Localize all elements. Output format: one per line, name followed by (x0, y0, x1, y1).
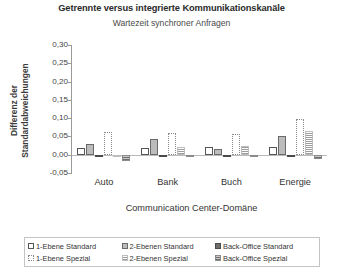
bar[interactable] (305, 131, 313, 155)
bar-slot (77, 45, 85, 173)
legend-swatch-icon (215, 255, 221, 261)
legend-item[interactable]: Back-Office Standard (215, 242, 316, 251)
legend-item-label: Back-Office Standard (223, 242, 293, 251)
bar[interactable] (241, 146, 249, 155)
bar[interactable] (269, 147, 277, 155)
bar-slot (205, 45, 213, 173)
bar-set (200, 45, 264, 173)
bar-slot (141, 45, 149, 173)
bar-group: Buch (200, 45, 264, 173)
x-axis-title: Communication Center-Domäne (40, 203, 343, 213)
y-axis-tick-label: 0,05 (30, 132, 68, 140)
bar[interactable] (250, 155, 258, 157)
bar[interactable] (205, 147, 213, 154)
bar-slot (223, 45, 231, 173)
chart-container: Getrennte versus integrierte Kommunikati… (0, 0, 343, 274)
x-axis-category-label: Buch (200, 177, 264, 187)
y-axis-tick-label: 0,00 (30, 151, 68, 159)
bar[interactable] (168, 133, 176, 155)
bar[interactable] (177, 147, 185, 155)
bar[interactable] (113, 155, 121, 157)
bar[interactable] (86, 144, 94, 155)
bar-slot (113, 45, 121, 173)
bar[interactable] (77, 148, 85, 155)
legend-item[interactable]: 2-Ebenen Standard (122, 242, 216, 251)
bar[interactable] (223, 155, 231, 157)
y-axis-tick-label: 0,15 (30, 96, 68, 104)
bar-set (136, 45, 200, 173)
y-axis-tick-mark (68, 173, 72, 174)
bar-slot (269, 45, 277, 173)
y-axis-tick-label: 0,30 (30, 41, 68, 49)
bar-slot (296, 45, 304, 173)
bar-slot (168, 45, 176, 173)
bar-slot (241, 45, 249, 173)
bar[interactable] (296, 119, 304, 155)
bar-slot (86, 45, 94, 173)
bar[interactable] (150, 139, 158, 155)
y-axis-tick-label: 0,20 (30, 78, 68, 86)
bar-slot (177, 45, 185, 173)
bar-group: Auto (72, 45, 136, 173)
bar[interactable] (186, 155, 194, 157)
bar[interactable] (141, 148, 149, 154)
legend-item-label: 1-Ebene Spezial (36, 254, 90, 263)
bar[interactable] (159, 155, 167, 157)
bar-slot (186, 45, 194, 173)
y-axis-title: Differenz der Standardabweichungen (9, 46, 30, 176)
bar[interactable] (122, 155, 130, 161)
bar-slot (287, 45, 295, 173)
bar-slot (214, 45, 222, 173)
legend-swatch-icon (28, 255, 34, 261)
bar[interactable] (278, 136, 286, 154)
bar-set (72, 45, 136, 173)
chart-legend: 1-Ebene Standard2-Ebenen StandardBack-Of… (24, 237, 320, 267)
bar[interactable] (104, 132, 112, 155)
bar[interactable] (95, 155, 103, 157)
bar-group: Bank (136, 45, 200, 173)
bar-slot (250, 45, 258, 173)
bar[interactable] (232, 134, 240, 155)
x-axis-category-label: Auto (72, 177, 136, 187)
chart-subtitle: Wartezeit synchroner Anfragen (0, 18, 343, 28)
bar-slot (150, 45, 158, 173)
bar-slot (278, 45, 286, 173)
bar-group: Energie (263, 45, 327, 173)
bar-set (263, 45, 327, 173)
bar-slot (232, 45, 240, 173)
bar-slot (104, 45, 112, 173)
legend-swatch-icon (28, 243, 34, 249)
legend-item[interactable]: 1-Ebene Standard (28, 242, 122, 251)
legend-item-label: 2-Ebenen Standard (130, 242, 194, 251)
legend-item-label: Back-Office Spezial (223, 254, 287, 263)
legend-item[interactable]: Back-Office Spezial (215, 254, 316, 263)
y-axis-tick-label: 0,10 (30, 114, 68, 122)
legend-item[interactable]: 1-Ebene Spezial (28, 254, 122, 263)
y-axis-tick-label: 0,25 (30, 59, 68, 67)
legend-item-label: 2-Ebenen Spezial (130, 254, 188, 263)
bar-slot (122, 45, 130, 173)
y-axis-tick-label: -0,05 (30, 169, 68, 177)
chart-title: Getrennte versus integrierte Kommunikati… (0, 3, 343, 13)
bar-slot (305, 45, 313, 173)
plot-area: 0,300,250,200,150,100,050,00-0,05 AutoBa… (71, 45, 327, 173)
x-axis-category-label: Bank (136, 177, 200, 187)
legend-item[interactable]: 2-Ebenen Spezial (122, 254, 216, 263)
bar[interactable] (214, 149, 222, 155)
bar-groups: AutoBankBuchEnergie (72, 45, 327, 173)
x-axis-category-label: Energie (263, 177, 327, 187)
bar[interactable] (314, 155, 322, 159)
legend-swatch-icon (122, 255, 128, 261)
legend-swatch-icon (215, 243, 221, 249)
legend-item-label: 1-Ebene Standard (36, 242, 96, 251)
bar[interactable] (287, 155, 295, 157)
bar-slot (95, 45, 103, 173)
legend-swatch-icon (122, 243, 128, 249)
bar-slot (314, 45, 322, 173)
bar-slot (159, 45, 167, 173)
